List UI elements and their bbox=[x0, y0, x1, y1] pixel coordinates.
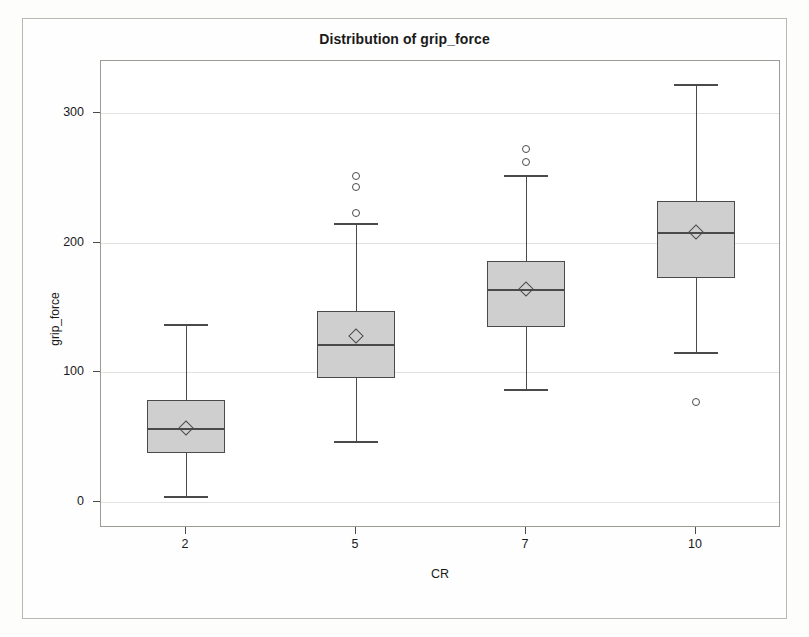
y-tick-mark bbox=[93, 501, 100, 502]
y-tick-label: 100 bbox=[24, 364, 84, 378]
x-tick-mark bbox=[525, 527, 526, 534]
boxplot-box bbox=[101, 61, 779, 526]
x-tick-mark bbox=[355, 527, 356, 534]
y-axis-label: grip_force bbox=[48, 292, 62, 345]
y-tick-mark bbox=[93, 371, 100, 372]
y-tick-label: 200 bbox=[24, 235, 84, 249]
y-tick-label: 0 bbox=[24, 494, 84, 508]
y-tick-label: 300 bbox=[24, 105, 84, 119]
chart-title: Distribution of grip_force bbox=[0, 31, 809, 47]
whisker-cap-lower bbox=[674, 352, 718, 354]
x-tick-label: 7 bbox=[495, 537, 555, 551]
x-axis-label: CR bbox=[100, 567, 780, 581]
whisker-cap-upper bbox=[674, 84, 718, 86]
x-tick-label: 5 bbox=[325, 537, 385, 551]
x-tick-label: 10 bbox=[665, 537, 725, 551]
chart-page: Distribution of grip_force grip_force 01… bbox=[0, 0, 809, 637]
plot-area bbox=[100, 60, 780, 527]
outlier-point bbox=[692, 398, 700, 406]
x-tick-label: 2 bbox=[155, 537, 215, 551]
y-tick-mark bbox=[93, 242, 100, 243]
x-tick-mark bbox=[695, 527, 696, 534]
x-tick-mark bbox=[185, 527, 186, 534]
y-tick-mark bbox=[93, 112, 100, 113]
